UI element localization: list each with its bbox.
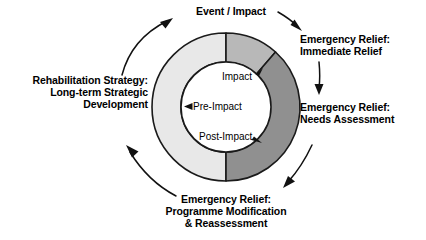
arrowhead-programme-modification-icon <box>283 176 295 188</box>
disaster-management-cycle-diagram: Event / Impact Emergency Relief: Immedia… <box>0 0 426 240</box>
label-emergency-relief-immediate: Emergency Relief: Immediate Relief <box>300 33 424 57</box>
arrowhead-needs-assessment-icon <box>315 84 324 95</box>
arrow-to-rehabilitation-path <box>130 152 176 196</box>
label-emergency-relief-programme-modification: Emergency Relief: Programme Modification… <box>128 193 324 230</box>
label-impact: Impact <box>222 71 252 82</box>
arrow-to-programme-modification-path <box>288 145 312 182</box>
label-emergency-relief-needs-assessment: Emergency Relief: Needs Assessment <box>300 101 424 125</box>
label-pre-impact: Pre-Impact <box>193 101 242 112</box>
arrowhead-event-impact-icon <box>160 18 173 29</box>
label-post-impact: Post-Impact <box>199 131 252 142</box>
arrowhead-rehabilitation-icon <box>126 145 139 158</box>
arrow-to-event-impact-path <box>122 21 167 75</box>
label-event-impact: Event / Impact <box>176 5 286 17</box>
label-rehabilitation-strategy: Rehabilitation Strategy: Long-term Strat… <box>2 74 148 111</box>
